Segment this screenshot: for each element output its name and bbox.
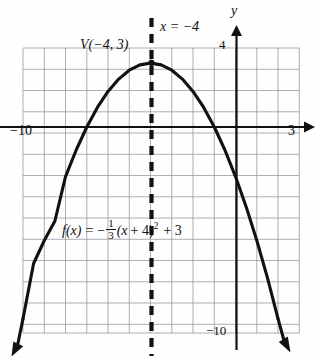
x-tick-label-3: 3 bbox=[288, 124, 295, 138]
equation-binomial-close: + 4) bbox=[131, 223, 154, 238]
vertex-label: V(−4, 3) bbox=[80, 38, 128, 52]
vertex-point bbox=[148, 60, 154, 66]
equation-equals-sign: = bbox=[85, 223, 93, 238]
axis-of-symmetry-label: x = −4 bbox=[160, 20, 199, 34]
grid-lines bbox=[23, 48, 299, 333]
function-equation-label: f(x)=−13(x+ 4)2+ 3 bbox=[62, 218, 182, 242]
equation-function-name: f(x) bbox=[62, 223, 81, 238]
equation-fraction: 13 bbox=[106, 218, 115, 242]
equation-leading-sign: − bbox=[97, 223, 105, 238]
x-tick-label-negative-10: −10 bbox=[10, 124, 32, 138]
x-axis bbox=[0, 122, 315, 133]
y-tick-label-4: 4 bbox=[219, 38, 226, 51]
equation-binomial-open: (x bbox=[117, 223, 128, 238]
equation-exponent: 2 bbox=[154, 221, 159, 231]
graph-figure: V(−4, 3) x = −4 y 4 −10 −10 3 f(x)=−13(x… bbox=[0, 0, 317, 359]
equation-fraction-numerator: 1 bbox=[106, 218, 115, 229]
y-tick-label-negative-10: −10 bbox=[206, 324, 226, 337]
y-axis-name-label: y bbox=[231, 4, 237, 18]
coordinate-plane bbox=[0, 0, 317, 359]
equation-constant-term: + 3 bbox=[163, 223, 181, 238]
equation-fraction-denominator: 3 bbox=[106, 229, 115, 241]
